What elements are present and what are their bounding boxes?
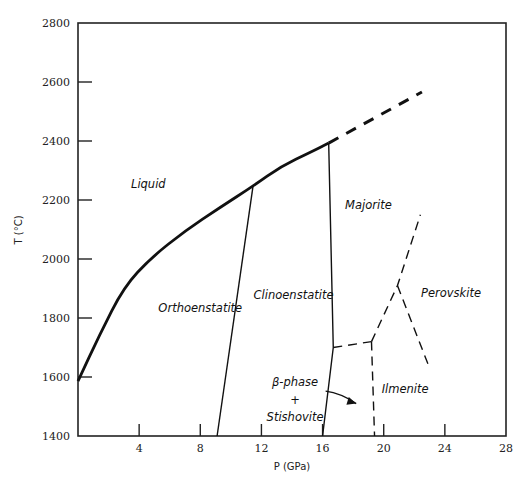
series-solidus-extrapolated bbox=[329, 92, 422, 143]
region-label: Clinoenstatite bbox=[254, 288, 334, 302]
y-tick-label: 2600 bbox=[42, 76, 70, 89]
y-axis-ticks: 14001600180020002200240026002800 bbox=[42, 17, 92, 443]
phase-diagram-chart: 14001600180020002200240026002800 4812162… bbox=[0, 0, 529, 491]
region-label: Orthoenstatite bbox=[158, 301, 242, 315]
x-tick-label: 16 bbox=[316, 442, 330, 455]
y-tick-label: 1800 bbox=[42, 312, 70, 325]
region-label: Liquid bbox=[131, 177, 166, 191]
x-tick-label: 4 bbox=[136, 442, 143, 455]
region-label: β-phase bbox=[271, 375, 318, 389]
y-tick-label: 2200 bbox=[42, 194, 70, 207]
y-axis-title: T (°C) bbox=[13, 215, 24, 245]
series-majorite-perovskite-boundary bbox=[371, 215, 420, 342]
series-group bbox=[78, 92, 430, 436]
x-tick-label: 8 bbox=[197, 442, 204, 455]
region-label: + bbox=[290, 393, 300, 407]
x-axis-ticks: 481216202428 bbox=[136, 424, 513, 455]
y-tick-label: 1400 bbox=[42, 430, 70, 443]
y-tick-label: 2000 bbox=[42, 253, 70, 266]
y-tick-label: 2400 bbox=[42, 135, 70, 148]
series-beta-majorite-boundary bbox=[333, 342, 371, 348]
x-tick-label: 20 bbox=[377, 442, 391, 455]
region-label: Ilmenite bbox=[382, 382, 429, 396]
region-label: Majorite bbox=[345, 198, 392, 212]
region-label: Stishovite bbox=[267, 410, 324, 424]
y-tick-label: 1600 bbox=[42, 371, 70, 384]
region-label: Perovskite bbox=[421, 286, 481, 300]
x-axis-title: P (GPa) bbox=[274, 461, 311, 472]
series-stishovite-ilmenite-boundary bbox=[371, 342, 374, 436]
annotations-group: LiquidOrthoenstatiteClinoenstatiteMajori… bbox=[131, 177, 481, 424]
y-tick-label: 2800 bbox=[42, 17, 70, 30]
x-tick-label: 24 bbox=[438, 442, 452, 455]
x-tick-label: 12 bbox=[254, 442, 268, 455]
series-solidus bbox=[78, 143, 329, 381]
x-tick-label: 28 bbox=[499, 442, 513, 455]
